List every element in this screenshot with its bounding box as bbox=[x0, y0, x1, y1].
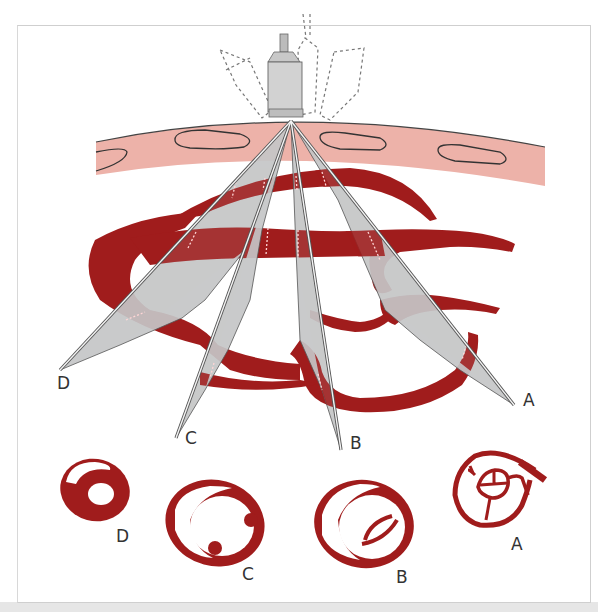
cross-section-label-c: C bbox=[242, 564, 254, 584]
plane-label-a: A bbox=[523, 390, 535, 410]
ultrasound-probe bbox=[268, 34, 303, 117]
cross-section-label-d: D bbox=[116, 526, 129, 546]
cross-section-label-b: B bbox=[396, 567, 408, 587]
cross-section-c: C bbox=[156, 469, 275, 584]
plane-label-d: D bbox=[57, 373, 70, 393]
ultrasound-diagram: A B C D D C B A bbox=[0, 0, 598, 612]
plane-label-b: B bbox=[350, 433, 362, 453]
cross-section-d: D bbox=[53, 451, 137, 546]
cross-section-label-a: A bbox=[511, 534, 523, 554]
plane-label-c: C bbox=[185, 428, 197, 448]
cross-section-b: B bbox=[307, 472, 421, 587]
cross-section-a: A bbox=[455, 453, 545, 554]
